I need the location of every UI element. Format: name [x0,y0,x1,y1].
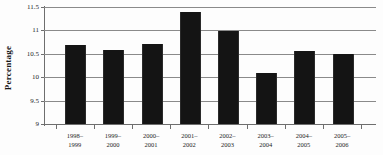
y-axis-tick-label: 11 [32,27,39,34]
bar-chart: Percentage 99.51010.51111.5 1998–1999199… [0,0,383,155]
x-axis-tick-label-line1: 2005– [322,131,362,140]
x-axis-tick-label-line2: 2006 [322,140,362,149]
x-axis-tick-label-line1: 1999– [93,131,133,140]
y-axis-tick-label: 10.5 [27,50,39,57]
x-axis-tick-label: 1998–1999 [55,131,95,149]
x-axis-tick-mark [94,125,95,129]
y-axis-tick-label: 9 [36,121,40,128]
x-axis-tick-label-line1: 2002– [207,131,247,140]
x-axis-tick-label-line1: 2000– [131,131,171,140]
x-axis-tick-labels: 1998–19991999–20002000–20012001–20022002… [44,131,376,153]
x-axis-tick-mark [56,125,57,129]
x-axis-tick-label-line2: 2004 [246,140,286,149]
bar [103,50,124,124]
bar [180,12,201,124]
x-axis-tick-mark [285,125,286,129]
bar [333,54,354,124]
x-axis-tick-label-line2: 2000 [93,140,133,149]
x-axis-tick-mark [247,125,248,129]
x-axis-tick-label: 2003–2004 [246,131,286,149]
x-axis-tick-label-line1: 2001– [169,131,209,140]
x-axis-tick-label-line2: 2002 [169,140,209,149]
plot-area [44,7,376,125]
y-axis-tick-label: 9.5 [30,97,39,104]
bar [65,45,86,124]
x-axis-tick-mark [323,125,324,129]
x-axis-tick-label: 2000–2001 [131,131,171,149]
bar [294,51,315,124]
y-axis-tick-label: 11.5 [27,4,39,11]
y-axis-tick-labels: 99.51010.51111.5 [16,0,42,130]
x-axis-tick-label: 2005–2006 [322,131,362,149]
x-axis-tick-label: 2001–2002 [169,131,209,149]
x-axis-tick-label-line2: 2003 [207,140,247,149]
x-axis-tick-mark [170,125,171,129]
x-axis-tick-marks [44,125,376,130]
bar [256,73,277,124]
bar [142,44,163,124]
x-axis-tick-label-line1: 1998– [55,131,95,140]
x-axis-tick-mark [208,125,209,129]
bars-layer [44,7,376,125]
x-axis-tick-label: 2004–2005 [284,131,324,149]
x-axis-tick-mark [361,125,362,129]
x-axis-tick-label-line2: 2001 [131,140,171,149]
x-axis-tick-label-line1: 2003– [246,131,286,140]
bar [218,31,239,124]
x-axis-tick-mark [132,125,133,129]
x-axis-tick-label: 1999–2000 [93,131,133,149]
y-axis-title-text: Percentage [3,46,13,90]
y-axis-title: Percentage [0,28,16,108]
x-axis-tick-label-line2: 2005 [284,140,324,149]
y-axis-tick-label: 10 [32,74,39,81]
x-axis-tick-label: 2002–2003 [207,131,247,149]
x-axis-tick-label-line1: 2004– [284,131,324,140]
x-axis-tick-label-line2: 1999 [55,140,95,149]
